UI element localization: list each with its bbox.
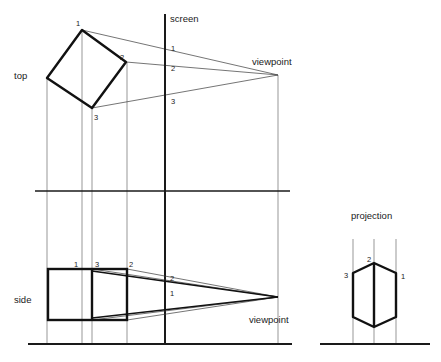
screen-label-side-2: 2: [170, 274, 174, 283]
label-projection: projection: [351, 210, 392, 221]
side-view-object-box: [48, 269, 127, 320]
screen-label-top-3: 3: [171, 97, 175, 106]
vertex-label-top-3: 3: [94, 113, 98, 122]
top-view-sight-lines: [82, 30, 278, 108]
perspective-projection-diagram: top side screen viewpoint viewpoint proj…: [0, 0, 441, 362]
vertex-label-side-3: 3: [95, 260, 99, 269]
screen-label-top-1: 1: [171, 44, 175, 53]
vertex-label-top-2: 2: [120, 53, 124, 62]
projection-panel: [320, 239, 430, 344]
sightline-side-top-b: [127, 269, 278, 297]
label-top-view: top: [14, 70, 27, 81]
vertex-label-side-1: 1: [74, 260, 78, 269]
vertex-label-top-1: 1: [76, 19, 80, 28]
label-side-view: side: [14, 294, 31, 305]
projection-label-1: 1: [401, 272, 405, 281]
construction-guides: [47, 30, 278, 344]
side-view-sight-lines: [92, 269, 278, 320]
diagram-canvas: top side screen viewpoint viewpoint proj…: [0, 0, 441, 362]
projection-label-2: 2: [367, 255, 371, 264]
projection-label-3: 3: [344, 271, 348, 280]
label-viewpoint-side: viewpoint: [249, 314, 289, 325]
sightline-side-top-main: [92, 271, 278, 297]
label-screen: screen: [170, 13, 199, 24]
screen-label-side-1: 1: [170, 289, 174, 298]
screen-label-top-2: 2: [171, 64, 175, 73]
top-view-object-square: [47, 30, 126, 108]
sightline-top-3: [92, 75, 278, 108]
vertex-label-side-2: 2: [129, 260, 133, 269]
label-viewpoint-top: viewpoint: [252, 56, 292, 67]
